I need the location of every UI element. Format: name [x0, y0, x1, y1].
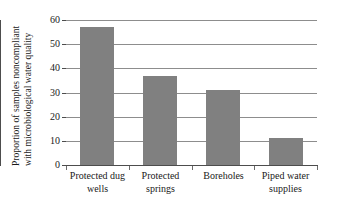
gridline-60: [66, 20, 317, 21]
bar: [206, 90, 240, 165]
y-axis-title-line-2: with microbiological water quality: [24, 33, 34, 166]
y-tick-label-30: 30: [36, 88, 60, 98]
x-category-label-line: Protected dug: [66, 170, 129, 183]
y-tick-label-50: 50: [36, 39, 60, 49]
bar-chart-figure: Proportion of samples noncompliant with …: [0, 0, 337, 207]
x-category-label-line: Boreholes: [192, 170, 255, 183]
y-tick-label-40: 40: [36, 63, 60, 73]
y-axis-title-line-1: Proportion of samples noncompliant: [12, 26, 22, 166]
x-category-label-line: supplies: [254, 183, 317, 196]
y-tick-label-10: 10: [36, 136, 60, 146]
x-category-label: Piped watersupplies: [254, 170, 317, 195]
x-category-label-line: Piped water: [254, 170, 317, 183]
y-tick-label-20: 20: [36, 112, 60, 122]
bar: [143, 76, 177, 165]
x-category-label: Boreholes: [192, 170, 255, 183]
y-axis-title: Proportion of samples noncompliant with …: [0, 0, 38, 170]
bar: [269, 138, 303, 165]
x-category-label: Protected dugwells: [66, 170, 129, 195]
x-category-label-line: springs: [129, 183, 192, 196]
y-axis-line: [0, 20, 1, 166]
y-tick-label-0: 0: [36, 160, 60, 170]
plot-area: [66, 20, 317, 165]
y-tick-label-60: 60: [36, 15, 60, 25]
x-category-label-line: wells: [66, 183, 129, 196]
bar: [80, 27, 114, 165]
x-category-label: Protectedsprings: [129, 170, 192, 195]
x-category-label-line: Protected: [129, 170, 192, 183]
x-axis-category-labels: Protected dugwellsProtectedspringsBoreho…: [66, 170, 318, 206]
